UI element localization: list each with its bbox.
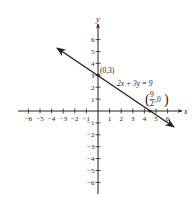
- y-tick-label: −4: [87, 155, 95, 163]
- y-tick-label: −1: [87, 119, 95, 127]
- x-tick-label: 4: [143, 115, 147, 123]
- point-x-intercept: [148, 109, 151, 112]
- y-tick-label: 2: [91, 84, 95, 92]
- svg-text:2: 2: [150, 99, 154, 108]
- x-tick-label: 3: [131, 115, 135, 123]
- y-tick-label: 6: [91, 36, 95, 44]
- x-tick-label: −4: [48, 115, 56, 123]
- x-intercept-label: ( 9 2 ,0 ): [145, 90, 169, 108]
- y-axis-label: y: [95, 15, 100, 24]
- equation-label: 2x + 3y = 9: [117, 79, 153, 88]
- svg-text:): ): [164, 92, 169, 108]
- y-tick-label: 4: [91, 60, 95, 68]
- y-tick-label: −6: [87, 179, 95, 187]
- axes: [18, 24, 182, 194]
- x-tick-label: −2: [71, 115, 79, 123]
- y-tick-label: −5: [87, 167, 95, 175]
- y-tick-label: 5: [91, 48, 95, 56]
- y-tick-label: −2: [87, 131, 95, 139]
- x-axis-label: x: [183, 107, 188, 116]
- svg-text:,0: ,0: [155, 95, 161, 104]
- x-tick-label: −6: [25, 115, 33, 123]
- coordinate-graph: −6−5−4−3−2−1123456 −6−5−4−3−2−1123456 x …: [0, 0, 196, 204]
- x-tick-label: 2: [119, 115, 123, 123]
- x-tick-label: −5: [36, 115, 44, 123]
- y-intercept-label: (0,3): [100, 66, 115, 75]
- y-tick-label: 1: [91, 96, 95, 104]
- x-tick-label: 1: [108, 115, 112, 123]
- y-tick-label: −3: [87, 143, 95, 151]
- svg-text:9: 9: [150, 90, 154, 99]
- x-tick-label: −3: [59, 115, 67, 123]
